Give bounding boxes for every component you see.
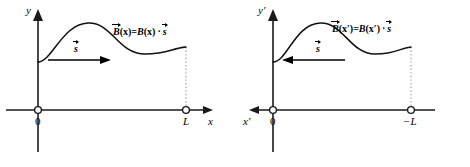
y-prime-axis-label: y′ bbox=[258, 5, 265, 16]
formula-dot: · bbox=[155, 26, 162, 37]
endpoint-label: −L bbox=[403, 116, 417, 127]
formula-lhs-base: B bbox=[332, 23, 339, 34]
formula-rhs-vector-base: s bbox=[163, 26, 167, 37]
endpoint-marker bbox=[183, 107, 190, 114]
formula-rhs-scalar-arg: (x) bbox=[144, 26, 156, 37]
x-prime-axis-label: x′ bbox=[243, 116, 250, 127]
formula-lhs-arg: (x) bbox=[120, 26, 132, 37]
primed-coordinate-system-panel: y′ x′ 0 −L s B(x′)=B(x′)·s bbox=[235, 0, 470, 167]
s-vector-label-text: s bbox=[316, 43, 320, 54]
y-axis bbox=[33, 9, 43, 152]
field-formula: B(x′)=B(x′)·s bbox=[332, 24, 391, 34]
origin-marker bbox=[35, 107, 42, 114]
formula-rhs-scalar-base: B bbox=[137, 26, 144, 37]
formula-rhs-scalar-base: B bbox=[359, 23, 366, 34]
field-formula: B(x)=B(x)·s bbox=[113, 27, 167, 37]
s-vector-label-text: s bbox=[74, 43, 78, 54]
y-axis-label: y bbox=[26, 5, 31, 16]
unprimed-coordinate-system-panel: y x 0 L s B(x)=B(x)·s bbox=[0, 0, 235, 167]
s-vector-arrow bbox=[282, 56, 345, 64]
endpoint-label: L bbox=[183, 116, 189, 127]
origin-marker bbox=[270, 107, 277, 114]
y-prime-axis bbox=[268, 9, 278, 152]
s-vector-label: s bbox=[74, 44, 78, 54]
s-vector-arrow bbox=[48, 56, 111, 64]
formula-lhs-arg: (x′) bbox=[339, 23, 353, 34]
formula-lhs-base: B bbox=[113, 26, 120, 37]
origin-label: 0 bbox=[35, 116, 41, 127]
origin-label: 0 bbox=[270, 116, 276, 127]
endpoint-marker bbox=[408, 107, 415, 114]
x-axis-label: x bbox=[208, 116, 213, 127]
s-vector-label: s bbox=[316, 44, 320, 54]
formula-rhs-vector-base: s bbox=[387, 23, 391, 34]
physics-diagram: y x 0 L s B(x)=B(x)·s bbox=[0, 0, 470, 167]
formula-rhs-scalar-arg: (x′) bbox=[366, 23, 380, 34]
